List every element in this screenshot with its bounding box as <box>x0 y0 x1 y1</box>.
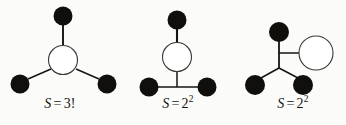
diagram-2-filled-node-right <box>198 78 217 97</box>
diagram-1-filled-node-bottom-left <box>11 75 30 94</box>
diagram-1-label-variable: S <box>44 96 51 111</box>
diagram-3-label-base: 2 <box>297 96 304 111</box>
diagram-2-hollow-node <box>163 43 192 72</box>
diagram-2-filled-node-left <box>140 78 159 97</box>
diagram-1-filled-node-top <box>54 7 73 26</box>
diagram-3-edge-bottom-right <box>279 68 298 78</box>
diagram-3-filled-node-top-left <box>269 22 289 42</box>
diagram-1-edge-bottom-left <box>28 69 51 79</box>
diagram-2-label-exponent: 2 <box>189 94 194 104</box>
diagram-3-edge-bottom-left <box>261 68 279 78</box>
diagram-2-label-base: 2 <box>182 96 189 111</box>
diagram-3-filled-node-bottom-right <box>293 75 313 95</box>
diagram-1-edge-bottom-right <box>76 69 99 79</box>
diagram-3-filled-node-bottom-left <box>245 75 265 95</box>
diagram-1-filled-node-bottom-right <box>98 75 117 94</box>
diagram-1-label-value: 3! <box>64 96 76 111</box>
diagram-1-label-equals: = <box>52 96 64 111</box>
diagram-1-group <box>11 7 117 94</box>
diagram-2-label: S=22 <box>141 96 215 112</box>
diagram-3-label: S=22 <box>256 96 330 112</box>
diagram-1-label: S=3! <box>24 96 96 112</box>
diagram-2-group <box>140 11 217 97</box>
diagram-1-hollow-node <box>49 46 78 75</box>
figure-canvas: S=3! S=22 S=22 <box>0 0 346 125</box>
diagram-2-filled-node-top <box>168 11 187 30</box>
diagram-2-label-equals: = <box>169 96 181 111</box>
diagram-3-group <box>245 22 333 95</box>
diagram-3-hollow-node <box>299 36 333 70</box>
diagram-3-label-exponent: 2 <box>304 94 309 104</box>
diagram-3-label-equals: = <box>284 96 296 111</box>
